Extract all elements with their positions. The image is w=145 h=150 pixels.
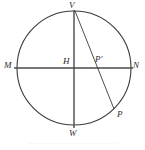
geometry-figure: V M N H P' P W ·························… — [0, 0, 145, 150]
point-label-h: H — [63, 57, 70, 66]
point-label-p: P — [117, 110, 123, 119]
point-label-m: M — [4, 61, 12, 70]
point-label-p-prime: P' — [95, 55, 102, 64]
figure-caption: ········································… — [0, 140, 145, 147]
point-label-v: V — [69, 1, 75, 10]
point-label-w: W — [69, 129, 77, 138]
point-label-n: N — [133, 61, 139, 70]
